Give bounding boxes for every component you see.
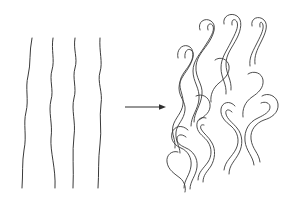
figure-background [0, 0, 303, 199]
polymer-conformation-figure [0, 0, 303, 199]
diagram-canvas [0, 0, 303, 199]
